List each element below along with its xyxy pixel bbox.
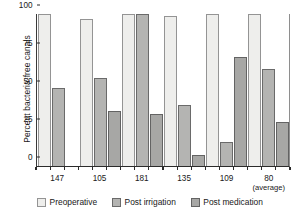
x-axis: 14710518113510980(average) [36, 167, 290, 192]
x-tick-mark [289, 167, 290, 170]
x-axis-tick-147: 147 [36, 167, 78, 192]
bar-181-post-irrigation [136, 14, 149, 166]
bar-80-post-medication [276, 122, 289, 166]
legend-item-post-irrigation: Post irrigation [112, 197, 176, 207]
y-axis-tick-75: 75 [23, 39, 37, 48]
x-axis-label: 135 [177, 174, 191, 183]
bar-109-post-irrigation [220, 142, 233, 166]
legend-label: Post medication [203, 197, 263, 207]
bar-105-post-irrigation [94, 78, 107, 166]
legend-swatch-icon [37, 198, 46, 207]
x-axis-label: 80 [264, 174, 273, 183]
bar-80-preoperative [248, 14, 261, 166]
bar-group-80 [247, 14, 289, 166]
y-axis-tick-25: 25 [23, 115, 37, 124]
bar-80-post-irrigation [262, 69, 275, 166]
x-tick-mark [219, 167, 220, 170]
y-axis-tick-50: 50 [23, 77, 37, 86]
bar-135-post-medication [192, 155, 205, 166]
legend-label: Post irrigation [125, 197, 176, 207]
x-axis-tick-181: 181 [121, 167, 163, 192]
x-tick-mark [148, 167, 149, 170]
bar-181-post-medication [150, 114, 163, 166]
x-tick-mark [191, 167, 192, 170]
bar-105-post-medication [108, 111, 121, 166]
x-tick-mark [177, 167, 178, 170]
x-axis-label: 109 [220, 174, 234, 183]
legend-label: Preoperative [50, 197, 98, 207]
x-tick-mark [261, 167, 262, 170]
x-axis-label: 181 [135, 174, 149, 183]
chart-legend: PreoperativePost irrigationPost medicati… [0, 197, 300, 207]
y-tick-mark [37, 157, 40, 158]
bar-group-147 [37, 14, 79, 166]
bar-135-post-irrigation [178, 105, 191, 166]
y-tick-mark [37, 5, 40, 6]
x-axis-sublabel: (average) [248, 183, 290, 192]
legend-item-post-medication: Post medication [191, 197, 263, 207]
bar-109-post-medication [234, 57, 247, 166]
x-tick-mark [233, 167, 234, 170]
y-tick-mark [37, 119, 40, 120]
bar-147-preoperative [38, 14, 51, 166]
bar-groups [37, 14, 289, 166]
bar-181-preoperative [122, 14, 135, 166]
bar-group-135 [163, 14, 205, 166]
y-tick-mark [37, 43, 40, 44]
legend-swatch-icon [191, 198, 200, 207]
bar-group-105 [79, 14, 121, 166]
bar-group-181 [121, 14, 163, 166]
y-axis-tick-100: 100 [19, 1, 37, 10]
bar-chart-figure: Percent bacteria-free canals 0255075100 … [0, 0, 300, 221]
x-tick-mark [134, 167, 135, 170]
x-tick-mark [275, 167, 276, 170]
x-axis-tick-80: 80(average) [248, 167, 290, 192]
bar-147-post-irrigation [52, 88, 65, 166]
bar-135-preoperative [164, 16, 177, 166]
x-tick-mark [64, 167, 65, 170]
x-tick-mark [35, 167, 36, 170]
legend-item-preoperative: Preoperative [37, 197, 97, 207]
x-axis-tick-135: 135 [163, 167, 205, 192]
x-axis-tick-109: 109 [205, 167, 247, 192]
x-tick-mark [106, 167, 107, 170]
legend-swatch-icon [112, 198, 121, 207]
x-tick-mark [50, 167, 51, 170]
x-axis-label: 147 [50, 174, 64, 183]
bar-109-preoperative [206, 14, 219, 166]
y-axis-title: Percent bacteria-free canals [22, 9, 32, 169]
x-axis-tick-105: 105 [78, 167, 120, 192]
y-axis-tick-0: 0 [28, 153, 37, 162]
bar-group-109 [205, 14, 247, 166]
plot-area: 0255075100 [36, 14, 290, 167]
x-tick-mark [92, 167, 93, 170]
y-tick-mark [37, 81, 40, 82]
bar-105-preoperative [80, 19, 93, 166]
x-axis-label: 105 [93, 174, 107, 183]
